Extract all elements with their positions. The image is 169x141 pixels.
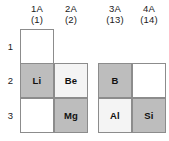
column-header-2a: 2A(2) xyxy=(54,3,88,25)
element-cell-b: B xyxy=(98,63,132,98)
column-header-iupac-number: (2) xyxy=(54,14,88,25)
element-cell-si: Si xyxy=(132,98,166,133)
column-header-group-label: 3A xyxy=(98,3,132,14)
column-header-iupac-number: (14) xyxy=(132,14,166,25)
element-cell-empty-4a-2 xyxy=(132,63,166,98)
column-header-group-label: 1A xyxy=(20,3,54,14)
periodic-table-fragment: 1A(1)2A(2)3A(13)4A(14) 123 LiBeMgBAlSi xyxy=(0,0,169,141)
row-label-period-2: 2 xyxy=(4,75,17,86)
column-header-iupac-number: (1) xyxy=(20,14,54,25)
column-header-iupac-number: (13) xyxy=(98,14,132,25)
element-cell-empty-1a-3 xyxy=(20,98,54,133)
element-cell-be: Be xyxy=(54,63,88,98)
element-cell-al: Al xyxy=(98,98,132,133)
column-header-1a: 1A(1) xyxy=(20,3,54,25)
element-cell-empty-1a-1 xyxy=(20,29,54,64)
element-cell-mg: Mg xyxy=(54,98,88,133)
column-header-4a: 4A(14) xyxy=(132,3,166,25)
row-label-period-1: 1 xyxy=(4,41,17,52)
element-cell-li: Li xyxy=(20,63,54,98)
column-header-3a: 3A(13) xyxy=(98,3,132,25)
column-header-group-label: 2A xyxy=(54,3,88,14)
row-label-period-3: 3 xyxy=(4,110,17,121)
column-header-group-label: 4A xyxy=(132,3,166,14)
